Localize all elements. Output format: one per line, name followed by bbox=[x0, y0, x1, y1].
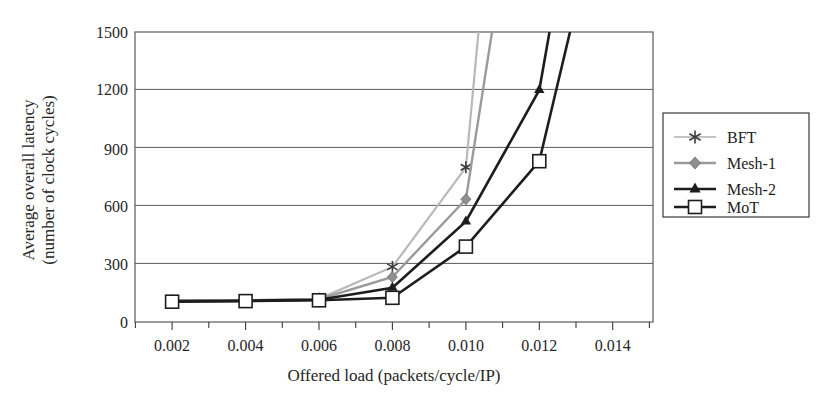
open-square-marker-icon bbox=[459, 240, 472, 253]
legend: BFT Mesh-1 Mesh-2 MoT bbox=[663, 113, 809, 217]
open-square-marker-icon bbox=[313, 294, 326, 307]
y-axis-title-line2: (number of clock cycles) bbox=[39, 95, 58, 264]
x-tick-label: 0.002 bbox=[154, 337, 190, 354]
y-axis-title: Average overall latency (number of clock… bbox=[19, 95, 58, 264]
chart-figure: Average overall latency (number of clock… bbox=[0, 0, 817, 404]
x-tick-label: 0.012 bbox=[521, 337, 557, 354]
y-tick-label: 900 bbox=[104, 141, 128, 158]
legend-label-bft: BFT bbox=[727, 129, 757, 146]
x-axis-ticks bbox=[135, 322, 649, 330]
y-tick-label: 300 bbox=[104, 256, 128, 273]
x-tick-labels: 0.002 0.004 0.006 0.008 0.010 0.012 0.01… bbox=[154, 337, 631, 354]
open-square-marker-icon bbox=[386, 291, 399, 304]
x-tick-label: 0.014 bbox=[595, 337, 631, 354]
y-tick-label: 600 bbox=[104, 198, 128, 215]
legend-label-mesh-1: Mesh-1 bbox=[727, 155, 776, 172]
y-axis-title-line1: Average overall latency bbox=[19, 99, 38, 261]
x-axis-title: Offered load (packets/cycle/IP) bbox=[287, 366, 500, 385]
open-square-marker-icon bbox=[166, 295, 179, 308]
open-square-marker-icon bbox=[239, 295, 252, 308]
y-tick-label: 1500 bbox=[96, 24, 128, 41]
x-tick-label: 0.006 bbox=[301, 337, 337, 354]
y-tick-labels: 1500 1200 900 600 300 0 bbox=[96, 24, 128, 331]
y-tick-label: 1200 bbox=[96, 81, 128, 98]
x-tick-label: 0.008 bbox=[374, 337, 410, 354]
y-tick-label: 0 bbox=[120, 314, 128, 331]
chart-svg: Average overall latency (number of clock… bbox=[0, 0, 817, 404]
open-square-marker-icon bbox=[689, 201, 702, 214]
open-square-marker-icon bbox=[533, 155, 546, 168]
x-tick-label: 0.010 bbox=[448, 337, 484, 354]
x-tick-label: 0.004 bbox=[228, 337, 264, 354]
legend-label-mesh-2: Mesh-2 bbox=[727, 181, 776, 198]
legend-label-mot: MoT bbox=[727, 199, 759, 216]
